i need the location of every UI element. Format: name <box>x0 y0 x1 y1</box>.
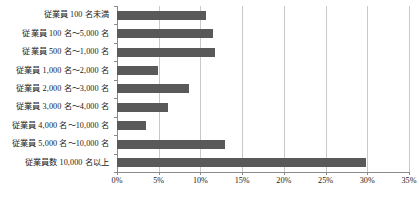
bar-row <box>117 117 409 135</box>
bar <box>117 29 213 38</box>
bar <box>117 11 206 20</box>
category-label: 従業員 500 名〜1,000 名 <box>22 47 109 57</box>
category-label: 従業員 3,000 名〜4,000 名 <box>16 102 109 112</box>
x-tick-mark <box>159 172 160 175</box>
bar <box>117 84 189 93</box>
bar-row <box>117 154 409 172</box>
bar-chart: 従業員 100 名未満従業員 100 名〜5,000 名従業員 500 名〜1,… <box>0 0 419 199</box>
x-tick-mark <box>200 172 201 175</box>
category-label: 従業員 5,000 名〜10,000 名 <box>12 139 109 149</box>
category-label: 従業員 100 名未満 <box>44 10 109 20</box>
category-label: 従業員 100 名〜5,000 名 <box>22 29 109 39</box>
x-tick-label: 15% <box>235 176 250 185</box>
x-tick-mark <box>409 172 410 175</box>
x-tick-mark <box>367 172 368 175</box>
bar-row <box>117 6 409 24</box>
x-tick-label: 0% <box>112 176 123 185</box>
category-label: 従業員 2,000 名〜3,000 名 <box>16 84 109 94</box>
x-tick-label: 30% <box>360 176 375 185</box>
plot-area <box>117 6 409 172</box>
bar <box>117 158 366 167</box>
bar-row <box>117 80 409 98</box>
x-tick-label: 10% <box>193 176 208 185</box>
x-tick-mark <box>117 172 118 175</box>
bar-series <box>117 6 409 172</box>
bar-row <box>117 24 409 42</box>
gridline-35 <box>409 6 410 172</box>
x-tick-label: 25% <box>318 176 333 185</box>
category-label: 従業員数 10,000 名以上 <box>25 158 109 168</box>
bar-row <box>117 135 409 153</box>
bar-row <box>117 61 409 79</box>
x-tick-mark <box>242 172 243 175</box>
bar <box>117 140 225 149</box>
x-tick-label: 20% <box>276 176 291 185</box>
bar <box>117 48 215 57</box>
category-label: 従業員 4,000 名〜10,000 名 <box>12 121 109 131</box>
x-tick-mark <box>326 172 327 175</box>
x-tick-mark <box>284 172 285 175</box>
bar <box>117 103 168 112</box>
x-axis-tick-labels: 0%5%10%15%20%25%30%35% <box>117 176 409 190</box>
category-axis-labels: 従業員 100 名未満従業員 100 名〜5,000 名従業員 500 名〜1,… <box>0 6 113 172</box>
x-tick-label: 35% <box>401 176 416 185</box>
bar-row <box>117 98 409 116</box>
x-tick-label: 5% <box>153 176 164 185</box>
bar-row <box>117 43 409 61</box>
bar <box>117 121 146 130</box>
bar <box>117 66 158 75</box>
category-label: 従業員 1,000 名〜2,000 名 <box>16 66 109 76</box>
